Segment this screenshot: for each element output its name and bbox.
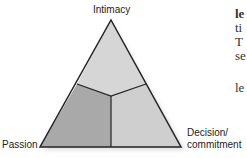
side-text-2: ti (235, 20, 242, 35)
side-text-4: se (235, 48, 246, 63)
label-intimacy: Intimacy (93, 4, 130, 15)
intimacy-region (77, 20, 146, 96)
label-passion: Passion (2, 139, 38, 150)
passion-region (40, 84, 111, 147)
commitment-region (111, 84, 181, 147)
side-text-3: T (235, 34, 243, 49)
side-text-5: le (235, 80, 244, 95)
side-text-1: le (235, 6, 244, 21)
label-decision-commitment: Decision/ commitment (187, 127, 241, 151)
